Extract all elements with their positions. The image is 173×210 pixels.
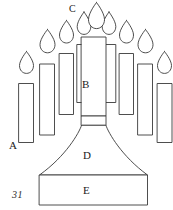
flame-icon (89, 3, 105, 29)
neck (82, 116, 107, 126)
candle-right-3 (120, 21, 134, 115)
candelabrum-drawing (0, 0, 173, 210)
part-label-a: A (9, 140, 17, 151)
flame-icon (158, 52, 172, 74)
flame-icon (20, 52, 34, 74)
candle-body (138, 64, 153, 135)
candle-left-2 (40, 30, 55, 136)
part-label-e: E (83, 185, 90, 196)
part-label-b: B (82, 79, 89, 90)
candle-outer-left (19, 52, 34, 143)
candle-body (40, 64, 55, 135)
part-label-d: D (83, 150, 91, 161)
candle-right-2 (138, 30, 153, 136)
flame-icon (60, 21, 74, 44)
center-candle-body (82, 37, 107, 116)
flared-stem (40, 126, 148, 176)
candle-body (158, 84, 173, 143)
flame-icon (120, 21, 134, 44)
candle-outer-right (158, 52, 173, 143)
candle-body (60, 54, 74, 115)
rectangular-base (40, 175, 148, 205)
flame-icon (138, 30, 153, 53)
flame-icon (40, 30, 55, 53)
figure-number: 31 (12, 190, 23, 200)
candle-body (19, 84, 34, 143)
candle-left-3 (60, 21, 74, 115)
part-label-c: C (69, 4, 76, 14)
figure-candelabrum: A B C D E 31 (0, 0, 173, 210)
candle-body (120, 54, 134, 115)
